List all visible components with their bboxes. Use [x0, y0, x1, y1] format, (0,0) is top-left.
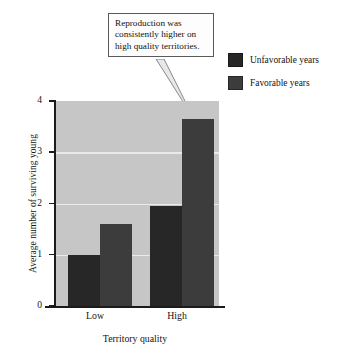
y-tick-mark-0 [49, 305, 55, 307]
legend-item-unfavorable-years: Unfavorable years [228, 50, 336, 69]
x-tick-label-high: High [142, 310, 212, 321]
legend: Unfavorable years Favorable years [228, 50, 336, 96]
bar-high-unfavorable [150, 206, 182, 306]
annotation-callout: Reproduction was consistently higher on … [108, 13, 214, 57]
bar-high-favorable [182, 119, 214, 306]
legend-label-favorable: Favorable years [250, 78, 310, 88]
legend-swatch-icon-favorable [228, 76, 243, 90]
y-axis-title: Average number of surviving young [27, 109, 38, 299]
y-tick-mark-2 [49, 203, 55, 205]
y-tick-label-0: 0 [2, 299, 42, 310]
bar-low-favorable [100, 224, 132, 306]
bar-low-unfavorable [68, 255, 100, 306]
y-tick-label-4: 4 [2, 94, 42, 105]
x-axis-title: Territory quality [45, 333, 225, 344]
legend-swatch-icon-unfavorable [228, 53, 243, 67]
x-tick-label-low: Low [60, 310, 130, 321]
y-tick-mark-3 [49, 151, 55, 153]
legend-item-favorable-years: Favorable years [228, 73, 336, 92]
x-axis-line [45, 306, 225, 308]
plot-area [55, 101, 219, 306]
legend-label-unfavorable: Unfavorable years [250, 55, 319, 65]
y-tick-mark-1 [49, 254, 55, 256]
annotation-callout-text: Reproduction was consistently higher on … [115, 18, 199, 51]
bar-chart-figure: Reproduction was consistently higher on … [0, 0, 339, 353]
y-tick-mark-4 [49, 100, 55, 102]
